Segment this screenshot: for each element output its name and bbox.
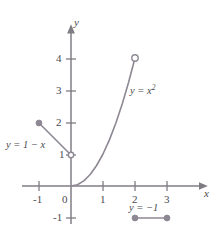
annotation-constant-equation: y = −1 [129, 203, 158, 214]
endpoint-filled-3-neg1 [164, 215, 170, 221]
y-axis-label: y [74, 17, 79, 28]
annotation-parabola-base: y = x [130, 85, 152, 96]
annotation-parabola-exponent: 2 [152, 83, 156, 92]
origin-label: 0 [62, 194, 68, 205]
x-axis-label: x [204, 188, 209, 199]
y-tick-label-1: 1 [59, 149, 65, 160]
endpoint-open-0-1 [68, 152, 73, 157]
y-tick-label-4: 4 [56, 53, 62, 64]
y-tick-label-3: 3 [56, 85, 62, 96]
endpoint-filled-neg1-2 [36, 120, 42, 126]
y-tick-label-neg1: -1 [53, 212, 63, 223]
x-tick-label-neg1: -1 [33, 194, 43, 205]
annotation-line-equation: y = 1 − x [6, 140, 45, 151]
endpoint-open-2-4 [132, 55, 138, 61]
function-graph-figure: y x -1 0 1 2 3 4 3 2 1 -1 y = 1 − x y = … [0, 0, 218, 238]
annotation-parabola-equation: y = x2 [130, 86, 155, 97]
y-tick-label-2: 2 [56, 117, 62, 128]
x-tick-label-3: 3 [164, 194, 170, 205]
endpoint-filled-2-neg1 [132, 215, 138, 221]
parabola-curve-x-squared [71, 58, 135, 186]
x-tick-label-1: 1 [100, 194, 106, 205]
